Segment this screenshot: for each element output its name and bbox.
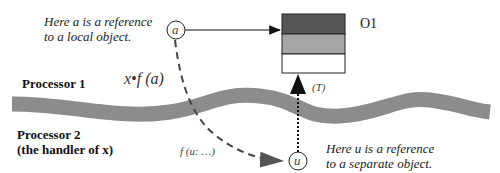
- object-o1-label: O1: [360, 16, 377, 32]
- local-reference-note: Here a is a reference to a local object.: [44, 14, 152, 44]
- node-u-label: u: [294, 153, 301, 169]
- type-label: (T): [312, 81, 325, 93]
- separate-reference-note: Here u is a reference to a separate obje…: [326, 141, 434, 171]
- processor-1-label: Processor 1: [22, 76, 85, 91]
- processor-2-label: Processor 2 (the handler of x): [17, 127, 113, 157]
- formal-argument-label: f (u: …): [180, 145, 215, 157]
- processor-boundary-band: [12, 95, 490, 116]
- object-o1: [282, 14, 345, 73]
- node-a-label: a: [172, 22, 179, 38]
- call-expression: x•f (a): [124, 70, 164, 88]
